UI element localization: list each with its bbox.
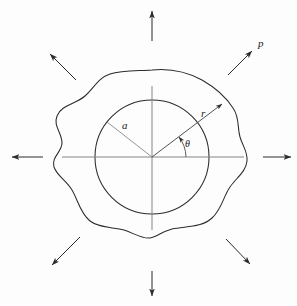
hole-radius-leader (107, 122, 152, 157)
arrow-northwest (50, 54, 76, 80)
arrow-southwest (52, 237, 80, 265)
figure-container: a r θ p (0, 0, 297, 306)
label-angular-coordinate-theta: θ (185, 139, 190, 149)
diagram-canvas (0, 0, 297, 306)
body-outline-path (53, 70, 247, 239)
label-pressure-p: p (258, 38, 264, 49)
label-radial-coordinate-r: r (201, 108, 205, 119)
arrow-northeast (228, 51, 252, 75)
label-hole-radius-a: a (122, 120, 128, 131)
arrow-southeast (226, 239, 250, 264)
